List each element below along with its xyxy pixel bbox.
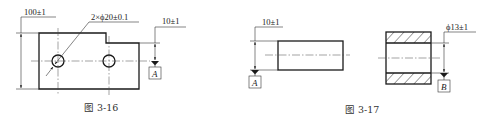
- caption-fig-3-17: 图 3-17: [345, 104, 379, 115]
- leader-height: [21, 17, 56, 33]
- datum-triangle-icon: [251, 70, 259, 75]
- shaft-outline: [278, 41, 343, 70]
- leader-datum: [155, 27, 186, 43]
- caption-fig-3-16: 图 3-16: [84, 102, 118, 113]
- figure-3-17: 10±1 A: [249, 17, 476, 115]
- datum-label-b: B: [441, 82, 447, 92]
- hole-leader: [55, 22, 89, 64]
- dimension-datum-text: 10±1: [162, 16, 179, 26]
- datum-label-a2: A: [251, 78, 258, 88]
- drawing-canvas: 100±1 2×ϕ20±0.1 10±1 A 图 3-16 10±1 A: [0, 0, 485, 125]
- bore-dimension-text: ϕ13±1: [446, 22, 468, 32]
- shaft-dimension-text: 10±1: [262, 17, 279, 27]
- datum-triangle-icon: [151, 61, 159, 66]
- figure-3-16: 100±1 2×ϕ20±0.1 10±1 A 图 3-16: [16, 7, 186, 113]
- datum-triangle-icon: [440, 73, 448, 78]
- bore-leader: [444, 32, 476, 43]
- datum-label-a: A: [151, 69, 158, 79]
- shaft-leader: [255, 27, 283, 41]
- dimension-height-text: 100±1: [24, 7, 46, 17]
- hole-arrow-lower: [46, 67, 53, 76]
- dimension-holes-text: 2×ϕ20±0.1: [91, 12, 128, 22]
